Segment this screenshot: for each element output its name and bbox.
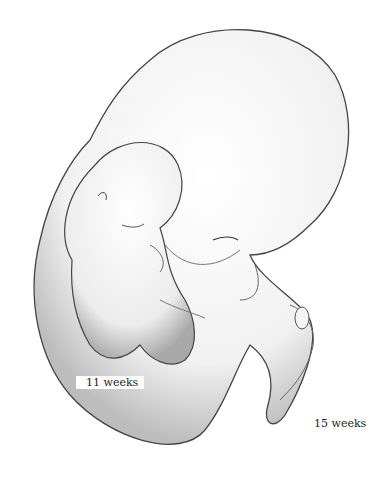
fetus-illustration	[0, 0, 389, 484]
fetus-drawing	[0, 0, 389, 484]
label-11-weeks: 11 weeks	[76, 376, 144, 389]
label-15-weeks: 15 weeks	[314, 417, 366, 430]
